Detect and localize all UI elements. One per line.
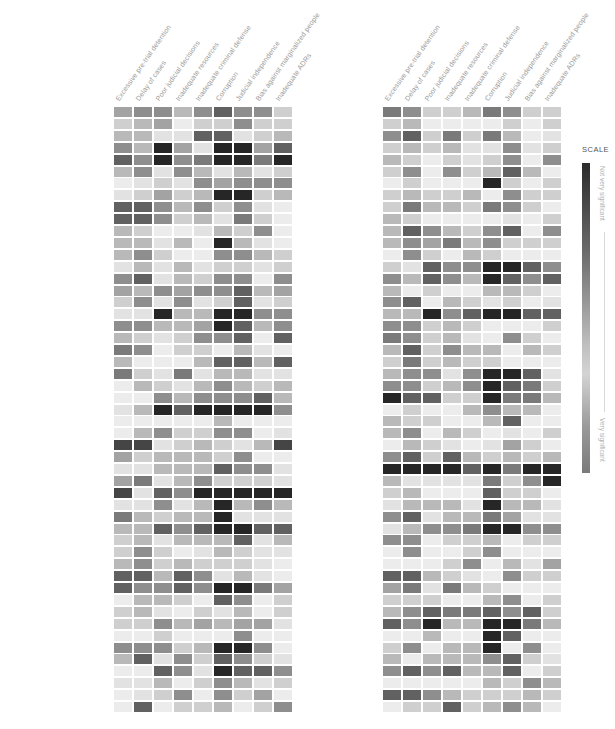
heatmap-cell — [503, 535, 521, 545]
heatmap-cell — [543, 631, 561, 641]
heatmap-cell — [503, 619, 521, 629]
heatmap-cell — [543, 524, 561, 534]
heatmap-cell — [483, 131, 501, 141]
heatmap-cell — [254, 321, 272, 331]
heatmap-cell — [174, 238, 192, 248]
heatmap-cell — [214, 107, 232, 117]
heatmap-cell — [154, 464, 172, 474]
heatmap-cell — [443, 167, 461, 177]
heatmap-cell — [114, 214, 132, 224]
heatmap-cell — [503, 262, 521, 272]
heatmap-cell — [194, 297, 212, 307]
heatmap-cell — [443, 202, 461, 212]
heatmap-cell — [403, 488, 421, 498]
heatmap-cell — [214, 309, 232, 319]
heatmap-cell — [403, 547, 421, 557]
heatmap-cell — [443, 643, 461, 653]
heatmap-cell — [443, 452, 461, 462]
heatmap-cell — [503, 702, 521, 712]
heatmap-cell — [503, 428, 521, 438]
heatmap-cell — [423, 119, 441, 129]
heatmap-cell — [403, 524, 421, 534]
heatmap-cell — [214, 155, 232, 165]
heatmap-cell — [154, 595, 172, 605]
heatmap-cell — [254, 452, 272, 462]
heatmap-cell — [174, 214, 192, 224]
heatmap-cell — [254, 512, 272, 522]
heatmap-cell — [523, 440, 541, 450]
heatmap-cell — [383, 524, 401, 534]
heatmap-cell — [423, 143, 441, 153]
heatmap-cell — [274, 286, 292, 296]
heatmap-cell — [134, 428, 152, 438]
heatmap-cell — [114, 309, 132, 319]
heatmap-cell — [543, 690, 561, 700]
heatmap-cell — [174, 464, 192, 474]
heatmap-cell — [543, 607, 561, 617]
heatmap-cell — [403, 333, 421, 343]
heatmap-cell — [194, 428, 212, 438]
heatmap-cell — [503, 357, 521, 367]
heatmap-cell — [114, 440, 132, 450]
heatmap-cell — [483, 452, 501, 462]
heatmap-cell — [134, 666, 152, 676]
heatmap-cell — [114, 405, 132, 415]
heatmap-cell — [443, 595, 461, 605]
heatmap-cell — [274, 440, 292, 450]
heatmap-cell — [483, 119, 501, 129]
heatmap-cell — [483, 571, 501, 581]
heatmap-cell — [423, 440, 441, 450]
heatmap-cell — [174, 369, 192, 379]
heatmap-cell — [214, 476, 232, 486]
column-header: Poor judicial decisions — [154, 0, 174, 104]
heatmap-cell — [114, 500, 132, 510]
heatmap-cell — [503, 488, 521, 498]
heatmap-cell — [423, 238, 441, 248]
heatmap-cell — [523, 226, 541, 236]
heatmap-cell — [403, 226, 421, 236]
heatmap-cell — [503, 464, 521, 474]
heatmap-cell — [194, 464, 212, 474]
heatmap-cell — [134, 262, 152, 272]
heatmap-cell — [274, 119, 292, 129]
heatmap-cell — [274, 190, 292, 200]
heatmap-cell — [134, 405, 152, 415]
heatmap-cell — [443, 286, 461, 296]
heatmap-cell — [403, 690, 421, 700]
heatmap-cell — [403, 631, 421, 641]
heatmap-cell — [114, 476, 132, 486]
heatmap-cell — [154, 440, 172, 450]
heatmap-cell — [214, 167, 232, 177]
heatmap-cell — [214, 464, 232, 474]
heatmap-cell — [214, 369, 232, 379]
heatmap-cell — [254, 607, 272, 617]
heatmap-cell — [114, 690, 132, 700]
heatmap-cell — [234, 607, 252, 617]
column-header: Corruption — [483, 0, 503, 104]
heatmap-cell — [274, 547, 292, 557]
heatmap-cell — [194, 607, 212, 617]
heatmap-cell — [483, 214, 501, 224]
heatmap-cell — [483, 250, 501, 260]
heatmap-cell — [463, 405, 481, 415]
heatmap-cell — [523, 678, 541, 688]
heatmap-cell — [443, 702, 461, 712]
heatmap-cell — [174, 309, 192, 319]
heatmap-cell — [254, 428, 272, 438]
heatmap-cell — [523, 262, 541, 272]
heatmap-cell — [234, 286, 252, 296]
heatmap-cell — [523, 428, 541, 438]
heatmap-cell — [463, 666, 481, 676]
heatmap-cell — [254, 226, 272, 236]
heatmap-cell — [174, 226, 192, 236]
heatmap-cell — [463, 119, 481, 129]
heatmap-cell — [383, 654, 401, 664]
heatmap-cell — [543, 428, 561, 438]
heatmap-cell — [234, 214, 252, 224]
heatmap-cell — [423, 476, 441, 486]
heatmap-cell — [383, 190, 401, 200]
heatmap-cell — [194, 583, 212, 593]
heatmap-cell — [543, 107, 561, 117]
heatmap-cell — [214, 131, 232, 141]
heatmap-cell — [383, 476, 401, 486]
